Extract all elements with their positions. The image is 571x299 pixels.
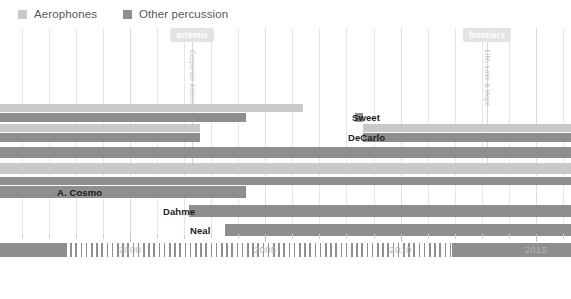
- axis-tick-label: 2010: [389, 244, 411, 255]
- square-swatch-icon: [18, 10, 27, 19]
- bar-segment[interactable]: [363, 133, 571, 142]
- axis-tick: [238, 234, 239, 239]
- axis-tick: [292, 234, 293, 239]
- bar-segment[interactable]: [0, 177, 571, 185]
- axis-tick: [374, 234, 375, 239]
- timeline-chart: Aerophones Other percussion artemisCorpo…: [0, 0, 571, 299]
- axis-tick: [346, 234, 347, 239]
- axis-tick: [76, 234, 77, 239]
- bar-row: [0, 104, 571, 112]
- bar-segment[interactable]: [189, 205, 571, 217]
- annotation-tag[interactable]: frontiers: [463, 28, 511, 42]
- axis-tick: [563, 234, 564, 239]
- bar-row-label: Sweet: [352, 113, 380, 123]
- axis-tick-label: 2005: [254, 244, 276, 255]
- bar-segment[interactable]: [0, 104, 303, 112]
- legend-label: Aerophones: [34, 8, 97, 20]
- bar-row: Dahme: [0, 205, 571, 217]
- square-swatch-icon: [123, 10, 132, 19]
- axis-tick: [509, 234, 510, 239]
- axis-tick-label: 2000: [119, 244, 141, 255]
- annotation-vertical-label: Life, Love & Hope: [484, 50, 491, 107]
- bar-row-label: Dahme: [163, 207, 195, 217]
- x-axis: 2000200520102015: [0, 234, 571, 266]
- axis-tick: [130, 234, 131, 242]
- bar-row: [0, 147, 571, 158]
- chart-legend: Aerophones Other percussion: [18, 6, 254, 22]
- axis-tick: [22, 234, 23, 239]
- axis-tick: [184, 234, 185, 239]
- axis-tick: [482, 234, 483, 239]
- axis-tick: [157, 234, 158, 239]
- axis-tick: [103, 234, 104, 239]
- annotation-vertical-label: Corporate America: [189, 50, 196, 109]
- bar-row: [0, 177, 571, 185]
- bar-row-label: DeCarlo: [348, 133, 385, 143]
- axis-tick: [536, 234, 537, 242]
- axis-tick: [428, 234, 429, 239]
- bar-segment[interactable]: [0, 124, 200, 132]
- axis-tick: [401, 234, 402, 242]
- bar-row: [0, 124, 571, 132]
- legend-label: Other percussion: [139, 8, 228, 20]
- bar-segment[interactable]: [0, 163, 571, 174]
- axis-tick: [319, 234, 320, 239]
- annotation-tag[interactable]: artemis: [170, 28, 214, 42]
- bar-segment[interactable]: [363, 124, 571, 132]
- axis-tick: [265, 234, 266, 242]
- axis-tick: [211, 234, 212, 239]
- legend-item-other-percussion[interactable]: Other percussion: [123, 8, 228, 20]
- legend-item-aerophones[interactable]: Aerophones: [18, 8, 97, 20]
- bar-row: A. Cosmo: [0, 186, 571, 198]
- bar-row: Sweet: [0, 113, 571, 122]
- axis-tick: [455, 234, 456, 239]
- bar-row: [0, 163, 571, 174]
- bar-segment[interactable]: [0, 113, 246, 122]
- bar-segment[interactable]: [0, 147, 571, 158]
- plot-area: artemisCorporate AmericafrontiersLife, L…: [0, 28, 571, 266]
- bar-segment[interactable]: [0, 186, 246, 198]
- bar-row-label: A. Cosmo: [57, 188, 102, 198]
- axis-tick: [49, 234, 50, 239]
- bar-row: DeCarlo: [0, 133, 571, 142]
- axis-tick-label: 2015: [525, 244, 547, 255]
- bar-segment[interactable]: [0, 133, 200, 142]
